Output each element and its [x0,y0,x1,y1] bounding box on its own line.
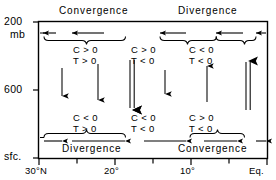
header-bottom-left-divergence: Divergence [62,144,122,154]
upper-annot-1-c: C > 0 [73,45,98,55]
lower-annot-1-c: C < 0 [73,113,98,123]
lower-annot-2-c: C < 0 [131,113,156,123]
lower-flow-arrows [40,138,266,142]
upper-annot-2-t: T < 0 [131,56,155,66]
x-tick-label-10: 10° [180,166,195,176]
header-bottom-right-convergence: Convergence [178,144,247,154]
upper-annot-1-t: T > 0 [73,56,97,66]
y-tick-label-200: 200 [4,16,22,27]
lower-annot-1-t: T > 0 [73,124,97,134]
lower-annot-2-t: T < 0 [131,124,155,134]
upper-annot-2-c: C > 0 [131,45,156,55]
upper-brace-far-right [216,37,256,45]
x-tick-label-eq: Eq. [249,166,264,176]
lower-annot-3-t: T < 0 [189,124,213,134]
vertical-arrow-down-3-double [130,60,134,110]
y-axis-ticks [33,22,39,158]
upper-annot-3-c: C < 0 [189,45,214,55]
figure-panel: 200 mb 600 sfc. 30°N 20° 10° Eq. Converg… [0,0,276,180]
header-top-left-convergence: Convergence [59,6,128,16]
plot-frame [39,22,268,159]
upper-annot-3-t: T < 0 [189,56,213,66]
vertical-arrow-up-2-double [246,61,250,110]
y-axis-unit-mb: mb [10,29,25,40]
y-tick-label-sfc: sfc. [4,151,22,162]
x-tick-label-30n: 30°N [25,166,47,176]
lower-annot-3-c: C > 0 [189,113,214,123]
x-tick-label-20: 20° [104,166,119,176]
x-axis-ticks [39,159,267,166]
y-tick-label-600: 600 [4,84,22,95]
header-top-right-divergence: Divergence [178,6,238,16]
